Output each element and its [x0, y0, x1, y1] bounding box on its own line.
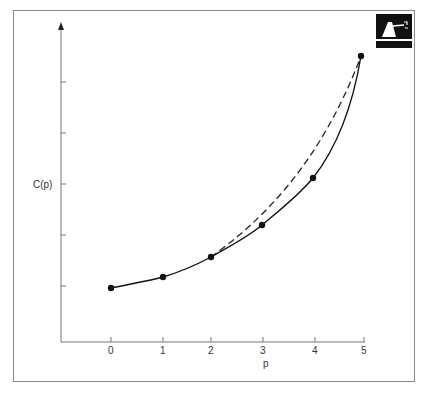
data-point	[108, 285, 114, 291]
x-tick-label: 0	[108, 345, 114, 356]
y-ticks	[61, 82, 66, 286]
x-tick-label: 2	[208, 345, 214, 356]
solid-curve-series	[111, 56, 361, 288]
y-axis-arrow-icon	[58, 22, 64, 30]
scale-balance-icon	[376, 14, 412, 48]
x-tick-label: 4	[312, 345, 318, 356]
dashed-line-series	[211, 56, 361, 257]
x-ticks	[111, 337, 364, 342]
y-axis-label: C(p)	[33, 179, 52, 190]
data-point	[358, 53, 364, 59]
x-tick-label: 3	[260, 345, 266, 356]
x-axis-label: p	[263, 358, 269, 369]
chart-canvas	[0, 0, 427, 398]
data-point	[208, 254, 214, 260]
x-tick-label: 1	[160, 345, 166, 356]
x-tick-label: 5	[361, 345, 367, 356]
data-point	[160, 274, 166, 280]
data-point	[259, 222, 265, 228]
data-point	[310, 175, 316, 181]
data-points	[108, 53, 364, 291]
